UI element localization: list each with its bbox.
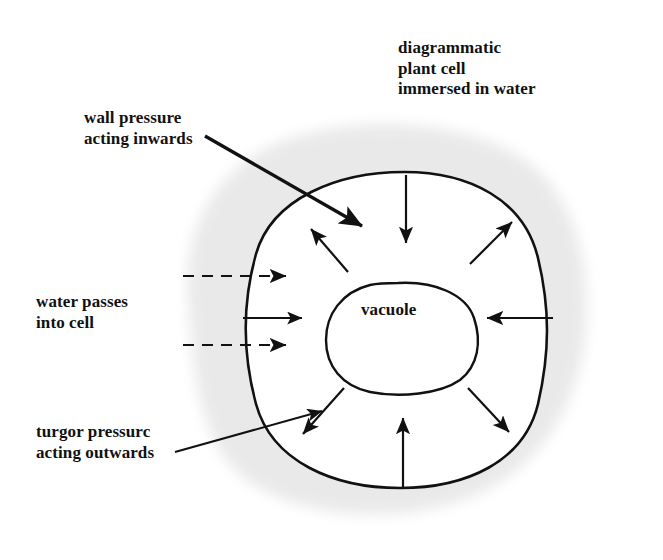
plant-cell-diagram bbox=[0, 0, 663, 560]
vacuole-label: vacuole bbox=[361, 300, 416, 321]
figure-title: diagrammatic plant cell immersed in wate… bbox=[398, 38, 536, 100]
turgor-pressure-label: turgor pressurc acting outwards bbox=[36, 422, 154, 463]
wall-pressure-label: wall pressure acting inwards bbox=[84, 108, 193, 149]
water-passes-label: water passes into cell bbox=[36, 292, 128, 333]
